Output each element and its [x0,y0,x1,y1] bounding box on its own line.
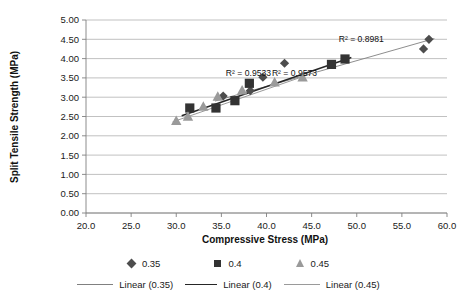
y-tick-label: 4.00 [61,53,80,64]
legend-label: 0.35 [142,258,161,269]
data-point-0-4 [327,60,336,69]
legend-label: Linear (0.45) [326,279,380,290]
x-tick-label: 50.0 [348,220,367,231]
y-tick-label: 4.50 [61,34,80,45]
legend-label: 0.45 [311,258,330,269]
x-tick-label: 25.0 [122,220,141,231]
data-point-0-45 [269,77,279,86]
y-tick-label: 0.50 [61,188,80,199]
trendline [182,57,352,115]
legend-trendline-2[interactable]: Linear (0.4) [185,279,272,290]
legend-label: 0.4 [228,258,241,269]
line-swatch-icon [284,284,320,285]
x-tick-label: 30.0 [167,220,186,231]
legend-markers-row: 0.350.40.45 [0,255,457,271]
data-point-0-45 [198,101,208,110]
r2-annotations-group: R² = 0.8981R² = 0.9533R² = 0.9573 [226,34,384,78]
x-tick-label: 20.0 [77,220,96,231]
x-tick-labels: 20.025.030.035.040.045.050.055.060.0 [77,213,457,231]
r-squared-annotation: R² = 0.8981 [339,34,384,44]
r-squared-annotation: R² = 0.9573 [272,68,317,78]
x-tick-label: 35.0 [212,220,231,231]
line-swatch-icon [77,284,113,285]
data-point-0-4 [185,103,194,112]
y-tick-label: 3.50 [61,72,80,83]
trendline [173,75,308,122]
legend-label: Linear (0.35) [119,279,173,290]
data-point-0-4 [230,96,239,105]
legend-trendline-3[interactable]: Linear (0.45) [284,279,380,290]
x-axis-title: Compressive Stress (MPa) [202,234,328,245]
legend-item-0-4[interactable]: 0.4 [214,258,241,269]
data-point-0-4 [340,54,349,63]
legend-trendline-1[interactable]: Linear (0.35) [77,279,173,290]
data-point-0-45 [171,116,181,125]
chart-container: 0.000.501.001.502.002.503.003.504.004.50… [0,0,457,303]
y-tick-label: 0.00 [61,207,80,218]
square-marker-icon [214,260,221,267]
line-swatch-icon [185,284,217,285]
data-point-0-4 [245,79,254,88]
y-tick-label: 1.50 [61,150,80,161]
legend-trendlines-row: Linear (0.35)Linear (0.4)Linear (0.45) [0,276,457,292]
triangle-marker-icon [296,259,304,267]
y-tick-labels: 0.000.501.001.502.002.503.003.504.004.50… [61,14,87,218]
legend-item-0-35[interactable]: 0.35 [128,258,161,269]
x-tick-label: 45.0 [302,220,321,231]
r-squared-annotation: R² = 0.9533 [226,68,271,78]
legend-item-0-45[interactable]: 0.45 [296,258,330,269]
x-tick-label: 55.0 [393,220,412,231]
legend-label: Linear (0.4) [223,279,272,290]
x-tick-label: 60.0 [438,220,457,231]
y-tick-label: 3.00 [61,92,80,103]
y-tick-label: 2.00 [61,130,80,141]
y-tick-label: 5.00 [61,14,80,25]
y-tick-label: 2.50 [61,111,80,122]
data-point-0-35 [424,35,433,44]
diamond-marker-icon [126,258,136,268]
y-axis-title: Split Tensile Strength (MPa) [9,51,20,183]
data-point-0-4 [211,103,220,112]
data-points-group [171,35,434,125]
gridlines-group [86,20,447,213]
data-point-0-35 [280,59,289,68]
x-tick-label: 40.0 [257,220,276,231]
data-point-0-35 [419,44,428,53]
y-tick-label: 1.00 [61,169,80,180]
